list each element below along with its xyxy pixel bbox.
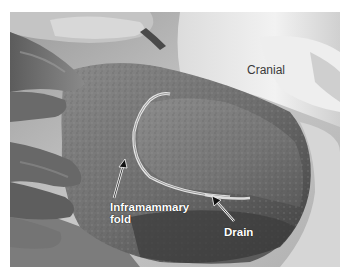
drain-label: Drain: [224, 226, 253, 238]
inframammary-fold-label: Inframammary fold: [110, 201, 189, 225]
cranial-label: Cranial: [247, 64, 285, 77]
scene-illustration: [10, 12, 340, 267]
fold-label-line1: Inframammary: [110, 201, 189, 213]
fold-label-line2: fold: [110, 213, 189, 225]
surgical-photo: [10, 12, 340, 267]
